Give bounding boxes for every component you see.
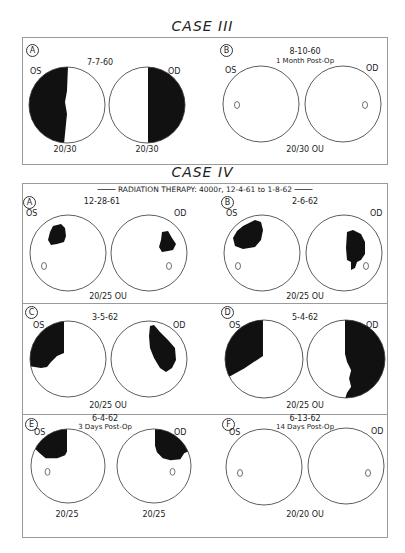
visual-field-os [28,66,106,144]
case-iv-title: CASE IV [0,164,405,180]
panel-letter-a: A [26,44,39,57]
visual-field-od [305,214,383,292]
visual-field-od [108,66,186,144]
blind-spot-icon [170,468,175,475]
panel-date: 6-4-62 [92,414,118,423]
visual-field-os [222,65,300,143]
combined-acuity: 20/20 OU [286,510,324,519]
panel-letter-b: B [221,196,234,209]
panel-date: 2-6-62 [292,197,318,206]
combined-acuity: 20/25 OU [286,292,324,301]
acuity-od: 20/25 [142,510,165,519]
panel-letter-d: D [221,306,234,319]
row-divider [22,303,388,304]
blind-spot-icon [45,468,50,475]
visual-field-od [306,319,386,399]
visual-field-od [304,65,382,143]
blind-spot-icon [235,102,240,109]
combined-acuity: 20/30 OU [286,145,324,154]
acuity-os: 20/30 [53,145,76,154]
panel-date: 12-28-61 [84,197,120,206]
blind-spot-icon [363,102,368,109]
visual-field-os [225,428,303,506]
visual-field-os [223,214,301,292]
blind-spot-icon [364,263,369,270]
radiation-therapy-note: RADIATION THERAPY: 4000r, 12-4-61 to 1-8… [98,185,313,194]
visual-field-os [224,319,304,399]
case-iii-title: CASE III [0,18,405,34]
visual-field-os [30,428,106,504]
combined-acuity: 20/25 OU [89,292,127,301]
visual-field-od [110,214,188,292]
panel-letter-b: B [220,44,233,57]
panel-letter-a: A [23,196,36,209]
visual-field-od [307,427,385,505]
visual-field-os [29,214,107,292]
panel-letter-c: C [25,306,38,319]
blind-spot-icon [167,263,172,270]
blind-spot-icon [236,263,241,270]
blind-spot-icon [42,263,47,270]
blind-spot-icon [366,470,371,477]
combined-acuity: 20/25 OU [286,401,324,410]
acuity-od: 20/30 [135,145,158,154]
panel-date: 6-13-62 [289,414,320,423]
radiation-therapy-text: RADIATION THERAPY: 4000r, 12-4-61 to 1-8… [118,185,292,194]
visual-field-od [110,320,188,398]
panel-date: 8-10-60 [289,47,320,56]
blind-spot-icon [238,470,243,477]
combined-acuity: 20/25 OU [89,401,127,410]
visual-field-od [116,428,192,504]
row-divider [22,414,388,415]
acuity-os: 20/25 [55,510,78,519]
panel-note: 1 Month Post-Op [276,57,334,65]
visual-field-os [29,320,107,398]
